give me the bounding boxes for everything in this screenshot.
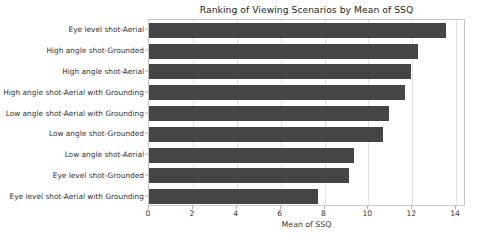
- bar: [149, 85, 405, 100]
- bar: [149, 23, 446, 38]
- y-axis-tick-label: Eye level shot-Aerial: [0, 25, 144, 34]
- y-axis-label-group: Eye level shot-AerialHigh angle shot-Gro…: [0, 19, 144, 206]
- bar: [149, 168, 349, 183]
- bar: [149, 127, 383, 142]
- y-axis-tick-label: High angle shot-Grounded: [0, 46, 144, 55]
- bar: [149, 106, 389, 121]
- bar: [149, 148, 354, 163]
- bar: [149, 44, 418, 59]
- x-axis-tick-label: 0: [146, 209, 151, 218]
- bars-layer: [149, 20, 464, 205]
- y-axis-tick-label: High angle shot-Aerial with Grounding: [0, 87, 144, 96]
- y-axis-tick-label: High angle shot-Aerial: [0, 66, 144, 75]
- plot-area: [148, 19, 465, 206]
- chart-title: Ranking of Viewing Scenarios by Mean of …: [148, 4, 465, 15]
- bar: [149, 64, 411, 79]
- chart-figure: Ranking of Viewing Scenarios by Mean of …: [0, 0, 480, 244]
- y-axis-tick-label: Low angle shot-Grounded: [0, 129, 144, 138]
- x-axis-tick-label: 6: [277, 209, 282, 218]
- x-axis-tick-group: 02468101214: [148, 206, 465, 220]
- y-axis-tick-label: Low angle shot-Aerial: [0, 150, 144, 159]
- x-axis-tick-label: 2: [189, 209, 194, 218]
- x-axis-tick-label: 4: [233, 209, 238, 218]
- x-axis-tick-label: 14: [450, 209, 460, 218]
- x-axis-title: Mean of SSQ: [148, 220, 465, 229]
- x-axis-tick-label: 8: [321, 209, 326, 218]
- x-axis-tick-label: 10: [363, 209, 373, 218]
- x-axis-tick-label: 12: [406, 209, 416, 218]
- y-axis-tick-label: Low angle shot-Aerial with Grounding: [0, 108, 144, 117]
- bar: [149, 189, 318, 204]
- y-axis-tick-label: Eye level shot-Aerial with Grounding: [0, 191, 144, 200]
- y-axis-tick-label: Eye level shot-Grounded: [0, 170, 144, 179]
